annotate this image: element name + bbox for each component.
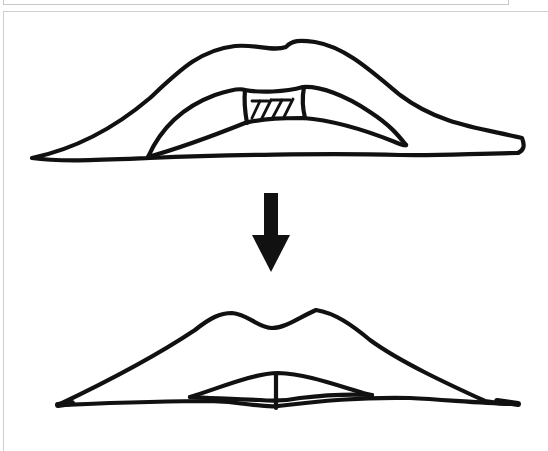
excision-wedge-right-edge <box>303 87 305 118</box>
excision-wedge-left-edge <box>245 90 247 123</box>
excision-hatch-marks <box>252 99 293 118</box>
after-upper-lip-contour <box>58 310 518 405</box>
after-left-commissure <box>58 403 72 405</box>
after-right-commissure <box>497 401 518 404</box>
after-lip-drawing <box>58 310 518 408</box>
down-arrow-icon <box>252 193 290 272</box>
before-lip-inner-lower-contour <box>148 118 406 157</box>
before-lip-drawing <box>32 41 524 160</box>
